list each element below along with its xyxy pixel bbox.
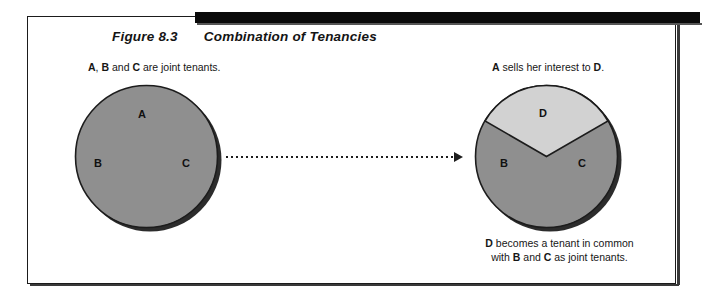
pie-after-label-d: D: [539, 108, 547, 119]
figure-number: Figure 8.3: [112, 29, 178, 44]
caption-bottom-l2-mid: and: [520, 251, 543, 263]
pie-chart-before: A B C: [72, 82, 224, 234]
pie-chart-after: D B C: [472, 82, 624, 234]
caption-left: A, B and C are joint tenants.: [88, 60, 221, 74]
pie-after-svg: [472, 82, 624, 234]
caption-left-c: C: [132, 61, 140, 73]
caption-bottom-d: D: [485, 237, 493, 249]
caption-bottom-l2-pre: with: [491, 251, 513, 263]
header-bar-shadow: [197, 23, 702, 25]
pie-before-label-b: B: [94, 158, 102, 169]
pie-before-label-a: A: [138, 109, 146, 120]
header-bar: [195, 12, 700, 23]
pie-after-label-b: B: [500, 158, 508, 169]
arrow-dotted-line: [226, 156, 454, 158]
caption-left-a: A: [88, 61, 96, 73]
caption-right-bottom-line1: D becomes a tenant in common: [452, 236, 667, 250]
arrow-head-icon: [454, 152, 463, 162]
pie-before-label-c: C: [182, 158, 190, 169]
caption-right-bottom: D becomes a tenant in common with B and …: [452, 236, 667, 264]
caption-bottom-l1-tail: becomes a tenant in common: [493, 237, 634, 249]
caption-right-top-tail: .: [601, 61, 604, 73]
caption-bottom-l2-tail: as joint tenants.: [551, 251, 627, 263]
caption-right-top-a: A: [492, 61, 500, 73]
caption-left-tail: are joint tenants.: [140, 61, 221, 73]
caption-left-and: and: [109, 61, 132, 73]
caption-left-b: B: [101, 61, 109, 73]
figure-title: Combination of Tenancies: [204, 29, 377, 44]
frame-shadow-bottom: [30, 284, 679, 286]
caption-right-top: A sells her interest to D.: [492, 60, 604, 74]
frame-shadow-right: [677, 20, 680, 285]
caption-right-top-mid: sells her interest to: [500, 61, 594, 73]
transition-arrow: [226, 150, 466, 164]
pie-after-label-c: C: [578, 158, 586, 169]
caption-right-bottom-line2: with B and C as joint tenants.: [452, 250, 667, 264]
figure-root: Figure 8.3 Combination of Tenancies A, B…: [0, 0, 709, 304]
figure-title-row: Figure 8.3 Combination of Tenancies: [112, 29, 377, 44]
